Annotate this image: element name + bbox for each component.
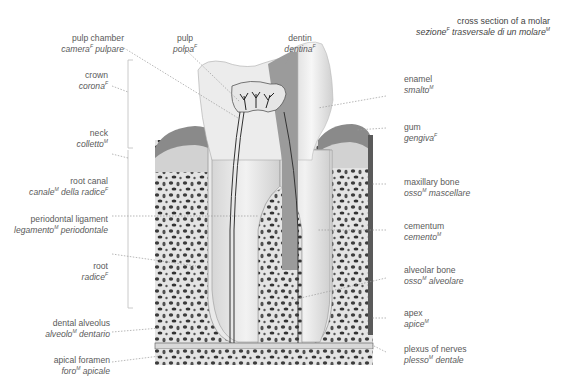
- label-apex: apex apiceM: [404, 308, 429, 329]
- label-neck: neck collettoM: [77, 128, 108, 149]
- diagram-title: cross section of a molar sezioneF trasve…: [416, 16, 550, 38]
- label-maxillary-bone: maxillary bone ossoM mascellare: [404, 177, 470, 198]
- label-periodontal-ligament: periodontal ligament legamentoM periodon…: [14, 214, 108, 235]
- label-plexus-of-nerves: plexus of nerves plessoM dentale: [404, 344, 467, 365]
- label-alveolar-bone: alveolar bone ossoM alveolare: [404, 265, 464, 286]
- plexus-of-nerves: [155, 343, 373, 349]
- label-gum: gum gengivaF: [404, 122, 437, 143]
- pulp-chamber: [232, 81, 286, 112]
- label-dental-alveolus: dental alveolus alveoloM dentario: [45, 318, 110, 339]
- label-root: root radiceF: [82, 261, 108, 282]
- label-enamel: enamel smaltoM: [404, 74, 433, 95]
- label-dentin: dentin dentinaF: [280, 33, 320, 54]
- label-root-canal: root canal canaleM della radiceF: [29, 176, 108, 197]
- title-en: cross section of a molar: [457, 16, 550, 26]
- label-crown: crown coronaF: [79, 70, 108, 91]
- label-apical-foramen: apical foramen foroM apicale: [54, 355, 110, 376]
- label-pulp-chamber: pulp chamber cameraF pulpare: [61, 33, 124, 54]
- label-pulp: pulp polpaF: [170, 33, 200, 54]
- label-cementum: cementum cementoM: [404, 221, 444, 242]
- bracket-lines: [128, 60, 133, 308]
- title-it: sezioneF trasversale di un molareM: [416, 27, 550, 38]
